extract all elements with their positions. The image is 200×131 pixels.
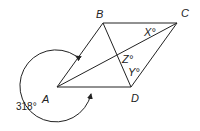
side-ab: [57, 23, 103, 87]
angle-label-z: Z°: [121, 53, 134, 65]
vertex-label-b: B: [96, 8, 103, 20]
vertex-label-d: D: [131, 92, 139, 104]
angle-label-y: Y°: [128, 66, 140, 78]
rhombus-diagram: A B C D X° Z° Y° 318°: [0, 0, 200, 131]
vertex-label-c: C: [181, 7, 189, 19]
vertex-label-a: A: [41, 93, 49, 105]
angle-label-318: 318°: [16, 101, 37, 112]
angle-label-x: X°: [143, 26, 156, 38]
